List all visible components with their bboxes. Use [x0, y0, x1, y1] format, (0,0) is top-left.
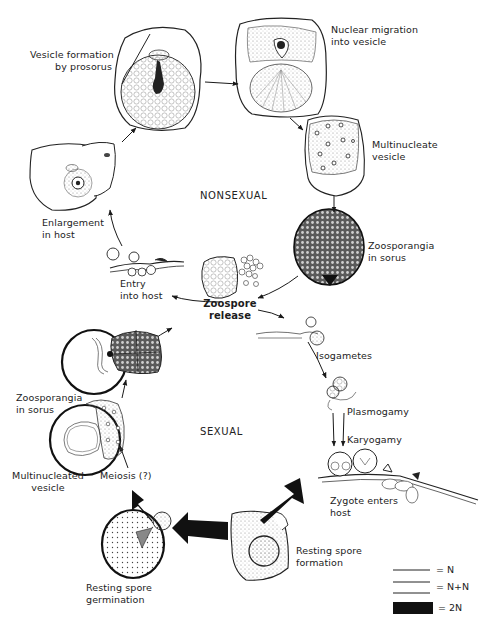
nuclear-migration-cell: [236, 18, 327, 117]
label-plasmogamy: Plasmogamy: [347, 406, 409, 418]
label-multinucleated-vesicle: Multinucleated vesicle: [8, 470, 88, 493]
zoosporangia-sorus-left: [62, 330, 162, 394]
label-nuclear-migration: Nuclear migration into vesicle: [331, 24, 418, 47]
phase-sexual: SEXUAL: [200, 426, 243, 437]
label-zoosporangia-sorus-left: Zoosporangia in sorus: [16, 392, 82, 415]
label-zoosporangia-sorus-right: Zoosporangia in sorus: [368, 240, 434, 263]
legend-n-plus-n: = N+N: [436, 581, 469, 592]
label-meiosis: Meiosis (?): [100, 470, 152, 482]
label-zygote: Zygote enters host: [330, 495, 398, 518]
label-vesicle-formation: Vesicle formation by prosorus: [30, 49, 112, 72]
life-cycle-diagram: NONSEXUAL SEXUAL Vesicle formation by pr…: [0, 0, 487, 630]
label-karyogamy: Karyogamy: [347, 434, 402, 446]
resting-spore-germination-cell: [102, 510, 171, 578]
label-entry: Entry into host: [120, 278, 163, 301]
label-isogametes: Isogametes: [316, 350, 372, 362]
legend-2n: = 2N: [438, 602, 462, 613]
legend-n: = N: [436, 564, 454, 575]
entry-host-hypha: [107, 248, 184, 276]
label-zoospore-release: Zoospore release: [200, 298, 260, 321]
multinucleate-vesicle-cell: [305, 116, 364, 196]
label-enlargement: Enlargement in host: [42, 217, 104, 240]
isogametes: [256, 317, 324, 345]
label-resting-spore-germination: Resting spore germination: [86, 582, 152, 605]
label-multinucleate-vesicle: Multinucleate vesicle: [372, 139, 438, 162]
prosorus-vesicle-cell: [115, 27, 201, 130]
resting-spore-formation-cell: [231, 511, 288, 580]
legend-symbols: [393, 570, 433, 614]
zoospore-release-cluster: [202, 255, 263, 298]
phase-nonsexual: NONSEXUAL: [200, 190, 267, 201]
label-resting-spore-formation: Resting spore formation: [296, 545, 362, 568]
enlargement-host-cell: [30, 142, 115, 210]
zoosporangia-sorus-right: [294, 209, 364, 286]
